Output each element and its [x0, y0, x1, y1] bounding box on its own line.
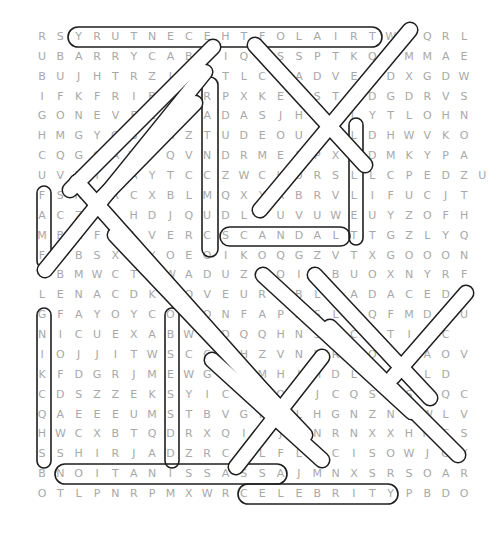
grid-cell[interactable]: Y — [437, 226, 455, 246]
grid-cell[interactable]: A — [308, 126, 326, 146]
grid-cell[interactable]: C — [198, 345, 216, 365]
grid-cell[interactable]: L — [327, 305, 345, 325]
grid-cell[interactable]: T — [363, 226, 381, 246]
grid-cell[interactable]: S — [33, 444, 51, 464]
grid-cell[interactable]: V — [418, 126, 436, 146]
grid-cell[interactable]: H — [161, 106, 179, 126]
grid-cell[interactable]: E — [125, 385, 143, 405]
grid-cell[interactable]: U — [51, 67, 69, 87]
grid-cell[interactable]: I — [400, 325, 418, 345]
grid-cell[interactable]: A — [235, 106, 253, 126]
grid-cell[interactable]: N — [143, 27, 161, 47]
grid-cell[interactable]: Y — [180, 385, 198, 405]
grid-cell[interactable]: V — [327, 246, 345, 266]
grid-cell[interactable]: L — [418, 226, 436, 246]
grid-cell[interactable]: A — [455, 146, 473, 166]
grid-cell[interactable]: N — [217, 305, 235, 325]
grid-cell[interactable]: S — [217, 226, 235, 246]
grid-cell[interactable]: R — [125, 67, 143, 87]
grid-cell[interactable]: R — [437, 265, 455, 285]
grid-cell[interactable]: C — [70, 325, 88, 345]
word-search-grid[interactable]: RSYRUTNECEHTFOLAIRTWBQRLUBARRYCABDIQSSSP… — [0, 0, 495, 534]
grid-cell[interactable]: Z — [180, 126, 198, 146]
grid-cell[interactable]: J — [290, 464, 308, 484]
grid-cell[interactable]: S — [161, 385, 179, 405]
grid-cell[interactable]: B — [418, 484, 436, 504]
grid-cell[interactable]: C — [455, 285, 473, 305]
grid-cell[interactable]: B — [308, 484, 326, 504]
grid-cell[interactable]: Z — [180, 444, 198, 464]
grid-cell[interactable]: Y — [290, 385, 308, 405]
grid-cell[interactable]: H — [70, 444, 88, 464]
grid-cell[interactable]: Y — [363, 106, 381, 126]
grid-cell[interactable]: N — [253, 385, 271, 405]
grid-cell[interactable]: S — [180, 464, 198, 484]
grid-cell[interactable]: W — [180, 365, 198, 385]
grid-cell[interactable]: O — [418, 206, 436, 226]
grid-cell[interactable]: Z — [400, 206, 418, 226]
grid-cell[interactable]: S — [455, 424, 473, 444]
grid-cell[interactable]: U — [455, 305, 473, 325]
grid-cell[interactable]: G — [382, 87, 400, 107]
grid-cell[interactable]: B — [327, 265, 345, 285]
grid-cell[interactable]: Y — [125, 305, 143, 325]
grid-cell[interactable]: A — [51, 405, 69, 425]
grid-cell[interactable]: P — [272, 305, 290, 325]
grid-cell[interactable]: R — [88, 47, 106, 67]
grid-cell[interactable]: C — [180, 27, 198, 47]
grid-cell[interactable]: S — [235, 464, 253, 484]
grid-cell[interactable]: X — [327, 146, 345, 166]
grid-cell[interactable]: G — [345, 87, 363, 107]
grid-cell[interactable]: L — [308, 285, 326, 305]
grid-cell[interactable]: A — [253, 226, 271, 246]
grid-cell[interactable]: Y — [143, 166, 161, 186]
grid-cell[interactable]: T — [88, 166, 106, 186]
grid-cell[interactable]: B — [106, 424, 124, 444]
grid-cell[interactable]: Z — [217, 166, 235, 186]
grid-cell[interactable]: Z — [253, 345, 271, 365]
grid-cell[interactable]: R — [327, 345, 345, 365]
grid-cell[interactable]: X — [345, 464, 363, 484]
grid-cell[interactable]: W — [418, 405, 436, 425]
grid-cell[interactable]: T — [198, 126, 216, 146]
grid-cell[interactable]: B — [400, 27, 418, 47]
grid-cell[interactable]: S — [455, 87, 473, 107]
grid-cell[interactable]: Z — [70, 226, 88, 246]
grid-cell[interactable]: O — [253, 246, 271, 266]
grid-cell[interactable]: S — [363, 464, 381, 484]
grid-cell[interactable]: F — [382, 305, 400, 325]
grid-cell[interactable]: C — [400, 285, 418, 305]
grid-cell[interactable]: K — [400, 146, 418, 166]
grid-cell[interactable]: L — [327, 226, 345, 246]
grid-cell[interactable]: X — [88, 424, 106, 444]
grid-cell[interactable]: C — [455, 385, 473, 405]
grid-cell[interactable]: O — [161, 87, 179, 107]
grid-cell[interactable]: D — [161, 424, 179, 444]
grid-cell[interactable]: E — [272, 405, 290, 425]
grid-cell[interactable]: W — [400, 126, 418, 146]
grid-cell[interactable]: Y — [253, 186, 271, 206]
grid-cell[interactable]: U — [473, 166, 491, 186]
grid-cell[interactable]: Q — [235, 47, 253, 67]
grid-cell[interactable]: R — [437, 305, 455, 325]
grid-cell[interactable]: L — [70, 484, 88, 504]
grid-cell[interactable]: X — [363, 246, 381, 266]
grid-cell[interactable]: D — [400, 87, 418, 107]
grid-cell[interactable]: Z — [88, 385, 106, 405]
grid-cell[interactable]: I — [198, 385, 216, 405]
grid-cell[interactable]: F — [253, 206, 271, 226]
grid-cell[interactable]: U — [88, 325, 106, 345]
grid-cell[interactable]: V — [217, 405, 235, 425]
grid-cell[interactable]: R — [253, 285, 271, 305]
grid-cell[interactable]: I — [235, 424, 253, 444]
grid-cell[interactable]: T — [308, 265, 326, 285]
grid-cell[interactable]: C — [106, 285, 124, 305]
grid-cell[interactable]: Q — [437, 385, 455, 405]
grid-cell[interactable]: G — [198, 365, 216, 385]
grid-cell[interactable]: N — [143, 265, 161, 285]
grid-cell[interactable]: M — [143, 365, 161, 385]
grid-cell[interactable]: G — [235, 405, 253, 425]
grid-cell[interactable]: A — [308, 27, 326, 47]
grid-cell[interactable]: W — [180, 325, 198, 345]
grid-cell[interactable]: Q — [345, 385, 363, 405]
